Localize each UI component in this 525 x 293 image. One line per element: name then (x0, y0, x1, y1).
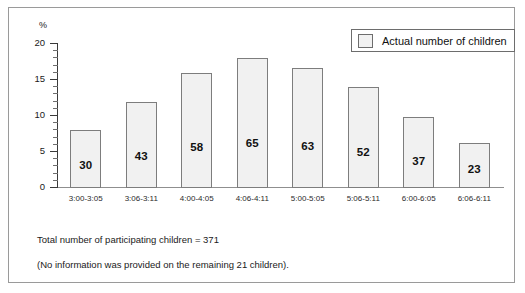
footnote-total: Total number of participating children =… (37, 234, 219, 245)
bar-column[interactable]: 52 (348, 87, 379, 188)
bar-rect[interactable] (126, 102, 157, 188)
chart-legend: Actual number of children (351, 29, 515, 52)
bar-column[interactable]: 43 (126, 102, 157, 188)
bar-column[interactable]: 65 (237, 58, 268, 188)
bar-rect[interactable] (237, 58, 268, 188)
figure-frame: % 05101520 303:00-3:05433:06-3:11584:00-… (8, 7, 515, 283)
x-axis-tick-label: 6:06-6:11 (437, 194, 511, 203)
bar-value-label: 58 (181, 141, 212, 153)
bar-column[interactable]: 58 (181, 73, 212, 188)
bar-value-label: 30 (70, 159, 101, 171)
bar-value-label: 43 (126, 150, 157, 162)
bar-rect[interactable] (348, 87, 379, 188)
bar-column[interactable]: 30 (70, 130, 101, 188)
legend-label: Actual number of children (382, 35, 507, 47)
bar-value-label: 63 (292, 140, 323, 152)
bar-column[interactable]: 23 (459, 143, 490, 188)
bar-rect[interactable] (181, 73, 212, 188)
chart-plot-area: % 05101520 303:00-3:05433:06-3:11584:00-… (9, 8, 516, 222)
bar-rect[interactable] (403, 117, 434, 188)
footnote-note: (No information was provided on the rema… (37, 259, 289, 270)
bar-value-label: 52 (348, 146, 379, 158)
bar-value-label: 23 (459, 163, 490, 175)
bar-value-label: 65 (237, 137, 268, 149)
bar-column[interactable]: 63 (292, 68, 323, 188)
bar-rect[interactable] (292, 68, 323, 188)
bar-column[interactable]: 37 (403, 117, 434, 188)
bar-value-label: 37 (403, 155, 434, 167)
legend-swatch-icon (358, 34, 373, 48)
